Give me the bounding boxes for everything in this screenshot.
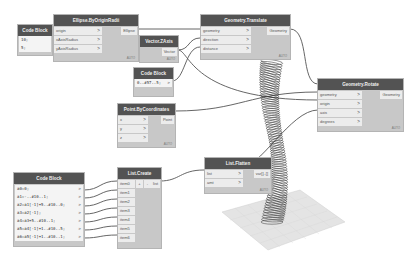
code-line[interactable]: a6=a5[-1]+1..#10..1;> <box>15 233 83 241</box>
chevron-right-icon: > <box>143 134 146 142</box>
input-port-geometry[interactable]: geometry> <box>318 91 362 99</box>
code-block-node-radii[interactable]: Code Block 10; 5; <box>17 24 53 56</box>
chevron-right-icon: > <box>97 27 100 35</box>
chevron-right-icon: > <box>246 36 249 44</box>
wire <box>84 226 117 230</box>
code-line[interactable]: 5; <box>19 44 51 52</box>
output-port-point[interactable]: Point <box>161 116 174 124</box>
chevron-right-icon: > <box>79 193 81 201</box>
code-line[interactable]: a4=a3+5..#10..1;> <box>15 217 83 225</box>
input-port-origin[interactable]: origin> <box>318 100 362 108</box>
add-input-button[interactable]: + <box>136 180 143 188</box>
wire <box>84 217 117 222</box>
node-title: Point.ByCoordinates <box>118 104 175 115</box>
input-port-degrees[interactable]: degrees> <box>318 118 362 126</box>
wire <box>160 170 204 181</box>
output-port-geometry[interactable]: Geometry <box>267 27 289 35</box>
node-title: Geometry.Translate <box>201 15 290 26</box>
node-title: Code Block <box>134 68 173 79</box>
input-port-geometry[interactable]: geometry> <box>201 27 251 35</box>
remove-input-button[interactable]: - <box>144 180 151 188</box>
input-port-item0[interactable]: item0 <box>118 180 135 188</box>
code-block-node-range[interactable]: Code Block 0..#57..5;> <box>133 67 174 97</box>
chevron-right-icon: > <box>357 100 360 108</box>
code-line[interactable]: a1=-..#10..1;> <box>15 193 83 201</box>
chevron-right-icon: > <box>246 45 249 53</box>
code-line[interactable]: 0..#57..5;> <box>135 79 172 87</box>
code-block-node-angles[interactable]: Code Block a0=0;> a1=-..#10..1;> a2=a1[-… <box>13 172 85 247</box>
output-port-var[interactable]: var[]..[] <box>254 170 270 178</box>
input-port-x[interactable]: x> <box>118 116 148 124</box>
chevron-right-icon: > <box>246 27 249 35</box>
geometry-translate-node[interactable]: Geometry.Translate geometry> direction> … <box>200 14 291 60</box>
wire <box>178 38 200 50</box>
code-line[interactable]: a0=0;> <box>15 185 83 193</box>
input-port-item4[interactable]: item4 <box>118 216 135 224</box>
lacing-label: AUTO <box>279 54 287 58</box>
lacing-label: AUTO <box>127 56 135 60</box>
wire <box>175 92 318 111</box>
vector-zaxis-node[interactable]: Vector.ZAxis Vector AUTO <box>139 35 179 63</box>
input-port-list[interactable]: list> <box>205 170 243 178</box>
chevron-right-icon: > <box>168 79 170 87</box>
input-port-item1[interactable]: item1 <box>118 189 135 197</box>
chevron-right-icon: > <box>79 225 81 233</box>
wire <box>84 181 117 190</box>
lacing-label: AUTO <box>392 126 400 130</box>
node-title: Code Block <box>14 173 84 184</box>
chevron-right-icon: > <box>97 36 100 44</box>
input-port-item2[interactable]: item2 <box>118 198 135 206</box>
code-line[interactable]: a3=a2[-1];> <box>15 209 83 217</box>
input-port-y[interactable]: y> <box>118 125 148 133</box>
code-line[interactable]: a5=a4[-1]+1..#10..5;> <box>15 225 83 233</box>
node-title: Vector.ZAxis <box>140 36 178 47</box>
dynamo-graph-canvas[interactable]: Code Block 10; 5; Ellipse.ByOriginRadii … <box>0 0 414 266</box>
node-title: List.Flatten <box>205 158 271 169</box>
input-port-z[interactable]: z> <box>118 134 148 142</box>
output-port-vector[interactable]: Vector <box>162 48 177 56</box>
chevron-right-icon: > <box>79 185 81 193</box>
ellipse-by-origin-radii-node[interactable]: Ellipse.ByOriginRadii origin> xAxisRadiu… <box>53 14 139 62</box>
chevron-right-icon: > <box>143 116 146 124</box>
lacing-label: AUTO <box>164 142 172 146</box>
output-port-list[interactable]: list <box>151 180 160 188</box>
list-flatten-node[interactable]: List.Flatten list> amt> var[]..[] AUTO <box>204 157 272 194</box>
chevron-right-icon: > <box>357 118 360 126</box>
chevron-right-icon: > <box>79 217 81 225</box>
code-line[interactable]: a2=a1[-1]+5..#10..0;> <box>15 201 83 209</box>
chevron-right-icon: > <box>357 91 360 99</box>
lacing-label: AUTO <box>167 57 175 61</box>
chevron-right-icon: > <box>143 125 146 133</box>
lacing-label: AUTO <box>260 188 268 192</box>
node-title: List.Create <box>118 168 161 179</box>
chevron-right-icon: > <box>238 170 241 178</box>
wire <box>84 190 117 198</box>
input-port-direction[interactable]: direction> <box>201 36 251 44</box>
input-port-xaxisradius[interactable]: xAxisRadius> <box>54 36 102 44</box>
chevron-right-icon: > <box>97 45 100 53</box>
node-title: Geometry.Rotate <box>318 79 403 90</box>
point-by-coordinates-node[interactable]: Point.ByCoordinates x> y> z> Point AUTO <box>117 103 176 148</box>
input-port-axis[interactable]: axis> <box>318 109 362 117</box>
chevron-right-icon: > <box>357 109 360 117</box>
node-title: Code Block <box>18 25 52 36</box>
chevron-right-icon: > <box>79 201 81 209</box>
node-title: Ellipse.ByOriginRadii <box>54 15 138 26</box>
geometry-rotate-node[interactable]: Geometry.Rotate geometry> origin> axis> … <box>317 78 404 132</box>
input-port-origin[interactable]: origin> <box>54 27 102 35</box>
input-port-amt[interactable]: amt> <box>205 179 243 187</box>
chevron-right-icon: > <box>238 179 241 187</box>
input-port-yaxisradius[interactable]: yAxisRadius> <box>54 45 102 53</box>
wire <box>84 208 117 214</box>
list-create-node[interactable]: List.Create item0 + - list item1 item2 i… <box>117 167 162 249</box>
input-port-distance[interactable]: distance> <box>201 45 251 53</box>
output-port-geometry[interactable]: Geometry <box>380 91 402 99</box>
input-port-item3[interactable]: item3 <box>118 207 135 215</box>
chevron-right-icon: > <box>79 209 81 217</box>
wire <box>84 235 117 238</box>
code-line[interactable]: 10; <box>19 36 51 44</box>
input-port-item5[interactable]: item5 <box>118 225 135 233</box>
input-port-item6[interactable]: item6 <box>118 234 135 242</box>
wire <box>290 29 318 84</box>
output-port-ellipse[interactable]: Ellipse <box>121 27 137 35</box>
